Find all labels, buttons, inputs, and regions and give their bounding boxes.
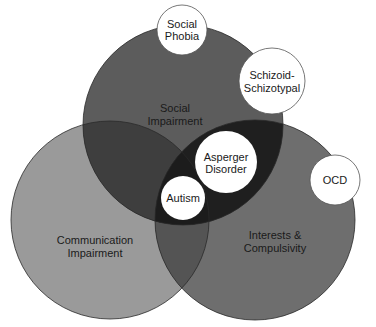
social-phobia-label-1: Social	[167, 18, 197, 30]
schizoid-label-2: Schizotypal	[244, 82, 300, 94]
social-phobia-label-2: Phobia	[165, 30, 200, 42]
asperger-label-1: Asperger	[204, 151, 249, 163]
ocd-bubble: OCD	[310, 155, 360, 205]
autism-label: Autism	[166, 192, 200, 204]
asperger-bubble: Asperger Disorder	[195, 131, 257, 193]
interests-compulsivity-label-1: Interests &	[249, 229, 302, 241]
schizoid-bubble: Schizoid- Schizotypal	[239, 48, 305, 114]
ocd-label: OCD	[323, 174, 348, 186]
asperger-label-2: Disorder	[205, 163, 247, 175]
venn-diagram: Social Impairment Communication Impairme…	[0, 0, 376, 327]
social-impairment-label-2: Impairment	[147, 115, 202, 127]
interests-compulsivity-label-2: Compulsivity	[244, 242, 307, 254]
schizoid-label-1: Schizoid-	[249, 69, 295, 81]
communication-impairment-label-2: Impairment	[67, 247, 122, 259]
social-phobia-bubble: Social Phobia	[157, 5, 207, 55]
communication-impairment-label-1: Communication	[57, 234, 133, 246]
autism-bubble: Autism	[161, 176, 205, 220]
social-impairment-label-1: Social	[160, 102, 190, 114]
